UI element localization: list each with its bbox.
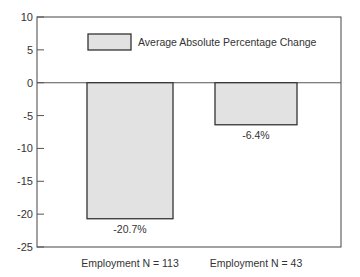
y-tick-label: 10 (21, 11, 33, 23)
bars: -20.7%Employment N = 113-6.4%Employment … (81, 83, 302, 269)
y-tick-label: 0 (27, 77, 33, 89)
y-tick-label: -10 (17, 142, 33, 154)
plot-frame (37, 17, 341, 247)
y-tick-label: -15 (17, 175, 33, 187)
bar-data-label: -20.7% (113, 223, 146, 235)
y-tick-label: -20 (17, 208, 33, 220)
x-category-label: Employment N = 113 (81, 257, 179, 269)
bar (87, 83, 173, 219)
x-category-label: Employment N = 43 (210, 257, 303, 269)
bar-chart: 1050-5-10-15-20-25 -20.7%Employment N = … (0, 0, 360, 277)
bar-data-label: -6.4% (242, 129, 269, 141)
legend: Average Absolute Percentage Change (88, 34, 317, 50)
bar (215, 83, 297, 125)
y-tick-label: 5 (27, 44, 33, 56)
y-tick-label: -5 (23, 110, 33, 122)
legend-swatch (88, 34, 131, 50)
legend-label: Average Absolute Percentage Change (138, 36, 317, 48)
y-tick-label: -25 (17, 241, 33, 253)
